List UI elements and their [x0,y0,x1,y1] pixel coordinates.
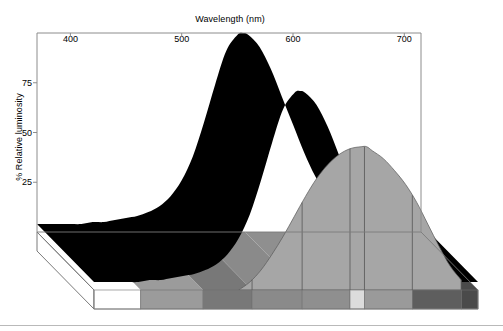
spectrum-band-front-below-visible [94,290,141,309]
spectrum-band-front-red [412,290,461,309]
spectrum-band-front-blue-cyan [203,290,252,309]
spectrum-band-front-cyan-green [252,290,302,309]
luminosity-chart-figure: Wavelength (nm) % Relative luminosity 40… [0,0,503,331]
spectrum-band-front-green [302,290,350,309]
spectrum-band-front-orange [364,290,412,309]
spectrum-band-front-yellow [350,290,364,309]
spectrum-band-front-violet-blue [141,290,203,309]
chart-canvas [0,0,503,331]
spectrum-band-front-deep-red [461,290,478,309]
page-rule [0,325,503,326]
